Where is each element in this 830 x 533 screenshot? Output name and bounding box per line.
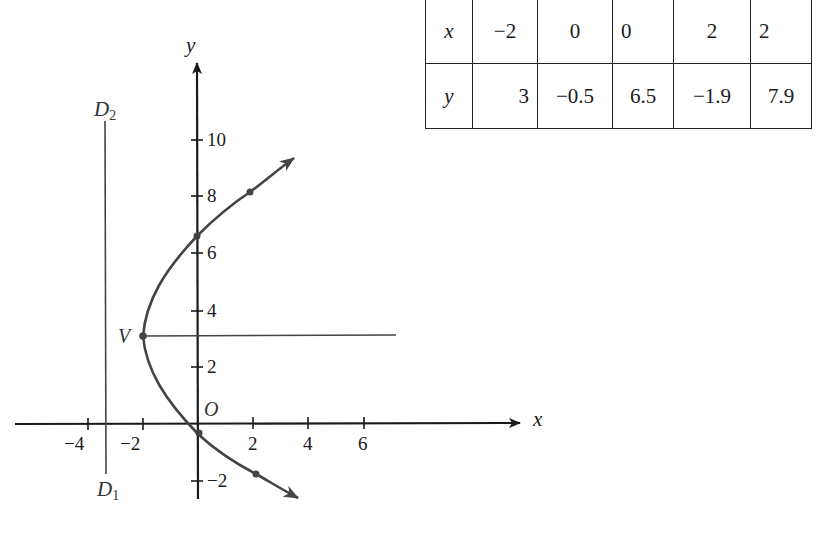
point-0-neg0.5 [196,430,203,437]
table-row-header: y [426,64,473,129]
table-row-header: x [426,0,473,64]
table-cell: −0.5 [538,64,613,129]
table-cell: 3 [473,64,538,129]
parabola-upper-branch [143,158,294,336]
x-tick-label: 4 [303,433,313,454]
symmetry-axis-line [143,335,396,336]
vertex-point [139,332,147,340]
y-tick-label: 4 [207,300,217,321]
table-row-y: y 3 −0.5 6.5 −1.9 7.9 [426,64,812,129]
x-tick-label: −2 [120,433,140,454]
y-axis-label: y [184,33,196,57]
table-cell: 0 [613,0,674,64]
x-tick-label: 2 [248,433,258,454]
table-cell: 2 [751,0,812,64]
x-tick-label: −4 [64,433,85,454]
origin-label: O [204,398,218,420]
x-axis [15,423,520,424]
y-tick-label: −2 [207,470,227,491]
table-cell: 7.9 [751,64,812,129]
table-cell: 2 [674,0,751,64]
y-tick-label: 10 [207,129,226,150]
table-cell: 0 [538,0,613,64]
table-row-x: x −2 0 0 2 2 [426,0,812,64]
point-0-6.5 [194,233,201,240]
point-2-neg1.9 [253,471,260,478]
table-cell: 6.5 [613,64,674,129]
directrix-top-label: D2 [93,97,116,123]
table-cell: −2 [473,0,538,64]
directrix-bottom-label: D1 [96,477,119,503]
y-tick-label: 8 [207,185,217,206]
values-table: x −2 0 0 2 2 y 3 −0.5 6.5 −1.9 7.9 [425,0,812,129]
table-cell: −1.9 [674,64,751,129]
x-axis-label: x [532,407,543,431]
y-tick-label: 6 [207,242,217,263]
vertex-label: V [118,325,133,347]
directrix-line [105,121,106,474]
x-tick-label: 6 [358,433,368,454]
point-2-7.9 [247,189,254,196]
y-tick-label: 2 [207,356,217,377]
